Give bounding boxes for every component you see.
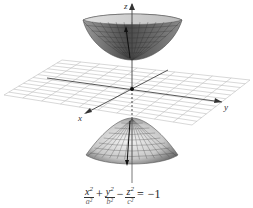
grid-line	[23, 62, 81, 98]
term-x: x2 a²	[84, 186, 94, 204]
origin-point	[130, 87, 134, 91]
x-axis-label: x	[77, 113, 82, 123]
upper-sheet	[83, 14, 182, 60]
term-y: y2 b²	[105, 186, 115, 204]
y-axis-label: y	[223, 102, 228, 112]
operator-equals: =	[137, 187, 144, 201]
hyperboloid-diagram: y x z	[0, 0, 253, 208]
operator-minus: −	[117, 187, 124, 201]
equation: x2 a² + y2 b² − z2 c² =−1	[84, 186, 162, 204]
grid-line	[60, 66, 118, 104]
grid-line	[192, 80, 250, 125]
grid-line	[4, 60, 62, 95]
xy-plane-grid	[4, 60, 250, 125]
z-axis-arrowhead	[129, 3, 135, 10]
equation-rhs: −1	[148, 187, 161, 201]
operator-plus: +	[96, 187, 103, 201]
term-z: z2 c²	[125, 186, 134, 204]
z-axis-label: z	[123, 1, 128, 11]
grid-line	[42, 64, 100, 101]
